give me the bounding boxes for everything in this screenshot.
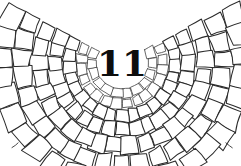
tissue-cell <box>196 50 215 67</box>
tissue-cell <box>87 59 97 69</box>
radial-tick <box>12 143 18 148</box>
tissue-cell <box>78 42 89 54</box>
tissue-cell <box>148 57 157 68</box>
tissue-cell <box>180 54 195 72</box>
tissue-cell <box>0 47 12 68</box>
tissue-cell <box>88 67 98 80</box>
tissue-cell <box>37 22 55 42</box>
tissue-cell <box>115 121 129 135</box>
tissue-cell <box>158 54 167 65</box>
cell-ring-layer <box>0 1 241 166</box>
tissue-cell <box>130 154 151 166</box>
radial-tick <box>226 143 232 148</box>
tissue-cell <box>116 110 130 123</box>
cell-tissue-diagram <box>0 0 241 166</box>
figure-root: 11 <box>0 0 241 166</box>
tissue-cell <box>113 155 129 166</box>
tissue-cell <box>33 69 49 88</box>
tissue-cell <box>87 47 100 58</box>
tissue-cell <box>120 135 139 155</box>
tissue-cell <box>122 99 132 108</box>
tissue-cell <box>94 152 112 166</box>
